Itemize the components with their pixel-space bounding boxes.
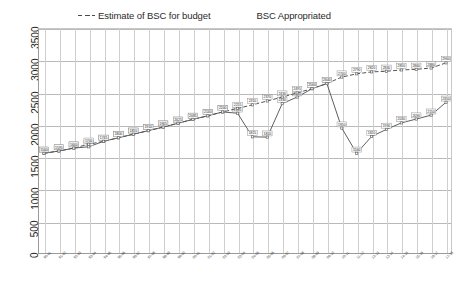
data-label: 1595: [55, 146, 63, 150]
data-point-marker: [73, 147, 75, 149]
data-label: 2150: [427, 110, 435, 114]
data-label: 2025: [174, 118, 182, 122]
data-point-marker: [341, 127, 343, 129]
data-label: 1820: [368, 131, 376, 135]
chart-legend: Estimate of BSC for budget BSC Appropria…: [78, 7, 331, 23]
legend-label-appropriated: BSC Appropriated: [257, 10, 331, 21]
data-label: 2030: [398, 117, 406, 121]
data-label: 2350: [442, 97, 450, 101]
data-label: 1800: [115, 132, 123, 136]
data-label: 1930: [383, 124, 391, 128]
data-point-marker: [192, 118, 194, 120]
data-label: 1560: [40, 148, 48, 152]
data-label: 1810: [264, 132, 272, 136]
data-label: 2820: [368, 66, 376, 70]
y-axis-labels: 0500100015002000250030003500: [0, 0, 38, 283]
data-label: 1965: [159, 122, 167, 126]
data-label: 2860: [412, 64, 420, 68]
data-label: 2085: [189, 114, 197, 118]
data-point-marker: [177, 122, 179, 124]
data-label: 1910: [144, 125, 152, 129]
data-point-marker: [162, 126, 164, 128]
data-point-marker: [430, 114, 432, 116]
data-label: 2200: [219, 106, 227, 110]
data-point-marker: [400, 122, 402, 124]
data-point-marker: [356, 73, 358, 75]
data-label: 2850: [398, 64, 406, 68]
line-appropriated: [44, 84, 446, 154]
data-label: 2830: [383, 66, 391, 70]
data-point-marker: [296, 96, 298, 98]
data-point-marker: [102, 140, 104, 142]
data-point-marker: [356, 152, 358, 154]
data-label: 2790: [353, 68, 361, 72]
data-point-marker: [88, 146, 90, 148]
data-point-marker: [266, 136, 268, 138]
data-point-marker: [58, 150, 60, 152]
data-point-marker: [207, 115, 209, 117]
data-label: 2255: [234, 103, 242, 107]
data-point-marker: [370, 135, 372, 137]
legend-entry-appropriated: BSC Appropriated: [257, 7, 331, 23]
data-point-marker: [117, 137, 119, 139]
data-point-marker: [251, 104, 253, 106]
data-label: 2140: [204, 110, 212, 114]
data-label: 2740: [338, 72, 346, 76]
data-point-marker: [400, 69, 402, 71]
data-point-marker: [251, 136, 253, 138]
legend-entry-estimate: Estimate of BSC for budget: [78, 7, 211, 23]
x-axis-labels: 90-9191-9292-9393-9494-9595-9696-9797-98…: [38, 255, 452, 281]
data-point-marker: [326, 82, 328, 84]
data-label: 1700: [85, 139, 93, 143]
data-label: 1815: [249, 131, 257, 135]
data-point-marker: [415, 118, 417, 120]
data-label: 2495: [293, 87, 301, 91]
data-label: 1950: [338, 123, 346, 127]
data-point-marker: [281, 96, 283, 98]
data-point-marker: [370, 71, 372, 73]
series-layer: 1560159516401660174518001855191019652025…: [38, 28, 452, 254]
data-point-marker: [236, 107, 238, 109]
data-label: 2960: [442, 57, 450, 61]
data-point-marker: [445, 101, 447, 103]
data-point-marker: [147, 130, 149, 132]
markers-appropriated: 1560159516401660174518001855191019652025…: [39, 77, 451, 154]
data-point-marker: [430, 67, 432, 69]
chart-container: Estimate of BSC for budget BSC Appropria…: [0, 0, 468, 283]
series-estimate: 1560159516401700174518001855191019652025…: [39, 57, 451, 155]
data-point-marker: [385, 70, 387, 72]
data-label: 2310: [249, 99, 257, 103]
data-point-marker: [385, 128, 387, 130]
data-point-marker: [415, 68, 417, 70]
legend-label-estimate: Estimate of BSC for budget: [98, 10, 211, 21]
data-label: 1745: [100, 136, 108, 140]
data-point-marker: [311, 88, 313, 90]
data-label: 2560: [308, 83, 316, 87]
data-point-marker: [296, 92, 298, 94]
data-label: 2640: [323, 78, 331, 82]
data-label: 2370: [264, 95, 272, 99]
data-label: 1640: [70, 143, 78, 147]
data-point-marker: [88, 143, 90, 145]
series-appropriated: 1560159516401660174518001855191019652025…: [39, 77, 451, 154]
dashed-line-marker-icon: [78, 15, 95, 16]
data-point-marker: [236, 112, 238, 114]
data-label: 1855: [130, 129, 138, 133]
data-label: 2330: [278, 98, 286, 102]
data-point-marker: [132, 133, 134, 135]
data-point-marker: [341, 76, 343, 78]
data-point-marker: [281, 102, 283, 104]
data-point-marker: [266, 100, 268, 102]
data-label: 2430: [278, 92, 286, 96]
data-point-marker: [445, 62, 447, 64]
data-point-marker: [222, 111, 224, 113]
data-label: 2880: [427, 63, 435, 67]
data-point-marker: [43, 152, 45, 154]
data-label: 2090: [412, 114, 420, 118]
data-label: 1560: [353, 148, 361, 152]
